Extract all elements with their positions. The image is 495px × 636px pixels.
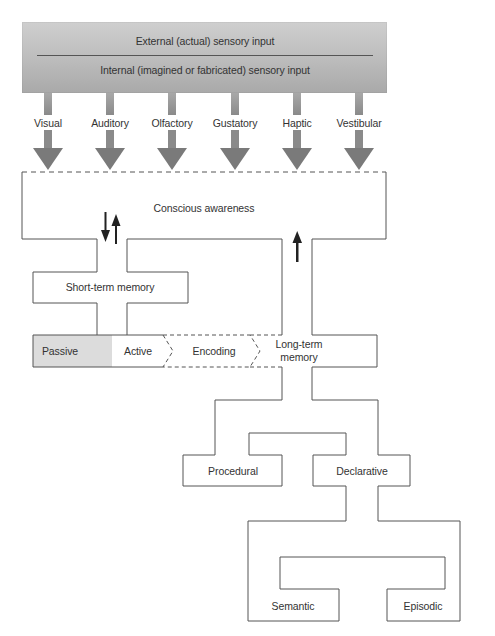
sense-label-vestibular: Vestibular [335,117,382,129]
short-term-memory-label: Short-term memory [66,281,155,293]
active-label: Active [124,345,152,357]
ltm-up-arrow-icon [293,231,303,262]
arrow-visual-icon [33,93,63,170]
ltm-right-outline [312,335,378,455]
declarative-label: Declarative [336,465,387,477]
arrow-auditory-icon [95,93,125,170]
diagram-lines [0,0,495,636]
sense-label-haptic: Haptic [281,117,312,129]
arrow-vestibular-icon [344,93,374,170]
conscious-awareness-label: Conscious awareness [154,202,255,214]
long-term-memory-label-1: Long-term [276,338,323,350]
procedural-label: Procedural [208,465,258,477]
stm-bidirectional-arrows-icon [101,212,121,244]
conscious-left-outline [22,172,97,272]
sense-label-auditory: Auditory [90,117,130,129]
arrow-olfactory-icon [157,93,187,170]
long-term-memory-label-2: memory [280,351,317,363]
semantic-label: Semantic [272,600,315,612]
memory-model-diagram: External (actual) sensory input Internal… [0,0,495,636]
arrow-gustatory-icon [220,93,250,170]
episodic-label: Episodic [404,600,443,612]
arrow-haptic-icon [282,93,312,170]
sense-arrows [33,93,374,170]
passive-label: Passive [42,345,78,357]
sense-label-gustatory: Gustatory [212,117,259,129]
conscious-right-outline [312,172,386,335]
sense-label-olfactory: Olfactory [150,117,193,129]
encoding-label: Encoding [193,345,236,357]
procedural-declarative-outline [183,367,346,521]
sense-label-visual: Visual [33,117,63,129]
